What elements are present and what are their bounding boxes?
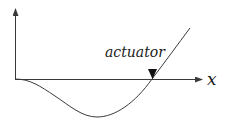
deflection-curve	[15, 28, 190, 117]
x-axis-label: x	[207, 69, 217, 89]
beam-deflection-diagram: x actuator	[0, 0, 229, 124]
actuator-label: actuator	[105, 44, 166, 60]
